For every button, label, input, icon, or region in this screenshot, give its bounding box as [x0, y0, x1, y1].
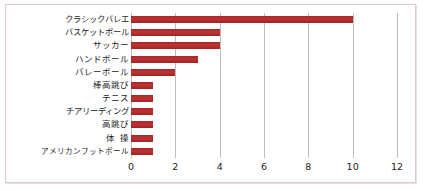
bar — [131, 135, 153, 142]
tick-label-6: 6 — [249, 160, 279, 174]
category-label: テニス — [8, 92, 129, 105]
category-label: 高跳び — [8, 118, 129, 131]
bar-row — [131, 145, 397, 158]
bar-row — [131, 66, 397, 79]
bar-row — [131, 118, 397, 131]
bar-row — [131, 53, 397, 66]
bar-row — [131, 26, 397, 39]
bar — [131, 69, 175, 76]
bar-row — [131, 39, 397, 52]
bar — [131, 148, 153, 155]
category-label: クラシックバレエ — [8, 13, 129, 26]
bar — [131, 121, 153, 128]
bar — [131, 29, 220, 36]
tick-label-2: 2 — [160, 160, 190, 174]
bar — [131, 82, 153, 89]
bar — [131, 42, 220, 49]
category-label: チアリーディング — [8, 105, 129, 118]
category-label: アメリカンフットボール — [8, 145, 129, 158]
tick-label-0: 0 — [116, 160, 146, 174]
bar-row — [131, 92, 397, 105]
horizontal-bar-chart: クラシックバレエバスケットボールサッカーハンドボールバレーボール棒高跳びテニスチ… — [0, 0, 426, 191]
chart-screenshot: クラシックバレエバスケットボールサッカーハンドボールバレーボール棒高跳びテニスチ… — [0, 0, 426, 191]
tick-label-8: 8 — [293, 160, 323, 174]
gridline-12 — [397, 13, 398, 158]
bar-row — [131, 79, 397, 92]
value-axis-tick-labels: 024681012 — [0, 160, 426, 176]
category-label: バスケットボール — [8, 26, 129, 39]
tick-label-12: 12 — [382, 160, 412, 174]
category-label: バレーボール — [8, 66, 129, 79]
bar-row — [131, 105, 397, 118]
bar-row — [131, 132, 397, 145]
plot-area — [131, 13, 397, 158]
bar — [131, 108, 153, 115]
bar — [131, 16, 353, 23]
bar — [131, 95, 153, 102]
category-label: 棒高跳び — [8, 79, 129, 92]
tick-label-4: 4 — [205, 160, 235, 174]
category-label: ハンドボール — [8, 53, 129, 66]
bar — [131, 56, 198, 63]
category-label: 体操 — [8, 132, 129, 145]
category-axis-labels: クラシックバレエバスケットボールサッカーハンドボールバレーボール棒高跳びテニスチ… — [8, 13, 129, 158]
tick-label-10: 10 — [338, 160, 368, 174]
category-label: サッカー — [8, 39, 129, 52]
bar-row — [131, 13, 397, 26]
